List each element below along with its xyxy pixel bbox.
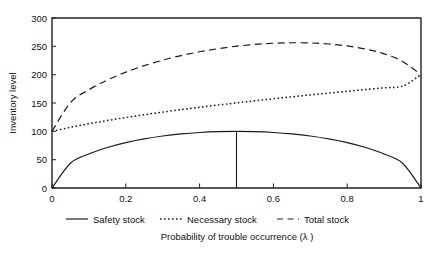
x-tick-1: 1 bbox=[418, 184, 423, 205]
y-tick-label: 50 bbox=[36, 154, 47, 165]
series-total-stock bbox=[52, 43, 421, 132]
x-tick-02: 0.2 bbox=[119, 184, 132, 205]
y-tick-0: 0 bbox=[42, 183, 56, 194]
y-tick-label: 250 bbox=[31, 41, 47, 52]
x-tick-06: 0.6 bbox=[267, 184, 280, 205]
y-tick-50: 50 bbox=[36, 154, 56, 165]
x-tick-0: 0 bbox=[49, 184, 54, 205]
x-tick-04: 0.4 bbox=[193, 184, 206, 205]
x-tick-label: 0.8 bbox=[341, 193, 354, 204]
figure-container: 0 50 100 150 200 250 bbox=[0, 0, 439, 253]
y-axis-title: Inventory level bbox=[7, 72, 18, 133]
legend-item-necessary-stock: Necessary stock bbox=[160, 214, 257, 225]
y-tick-label: 100 bbox=[31, 126, 47, 137]
series-necessary-stock bbox=[52, 75, 421, 132]
x-tick-label: 0.6 bbox=[267, 193, 280, 204]
legend-item-total-stock: Total stock bbox=[277, 214, 349, 225]
x-axis-title: Probability of trouble occurrence (λ ) bbox=[161, 231, 314, 242]
x-tick-08: 0.8 bbox=[341, 184, 354, 205]
inventory-level-chart: 0 50 100 150 200 250 bbox=[0, 0, 439, 253]
x-tick-label: 0 bbox=[49, 193, 54, 204]
x-tick-label: 1 bbox=[418, 193, 423, 204]
y-tick-label: 300 bbox=[31, 13, 47, 24]
legend-label-safety-stock: Safety stock bbox=[93, 214, 145, 225]
y-tick-label: 200 bbox=[31, 69, 47, 80]
legend: Safety stock Necessary stock Total stock bbox=[66, 214, 349, 225]
legend-label-necessary-stock: Necessary stock bbox=[187, 214, 257, 225]
legend-label-total-stock: Total stock bbox=[304, 214, 349, 225]
series-group bbox=[52, 43, 421, 188]
y-tick-label: 150 bbox=[31, 98, 47, 109]
y-tick-label: 0 bbox=[42, 183, 47, 194]
legend-item-safety-stock: Safety stock bbox=[66, 214, 145, 225]
x-tick-label: 0.2 bbox=[119, 193, 132, 204]
x-tick-label: 0.4 bbox=[193, 193, 206, 204]
